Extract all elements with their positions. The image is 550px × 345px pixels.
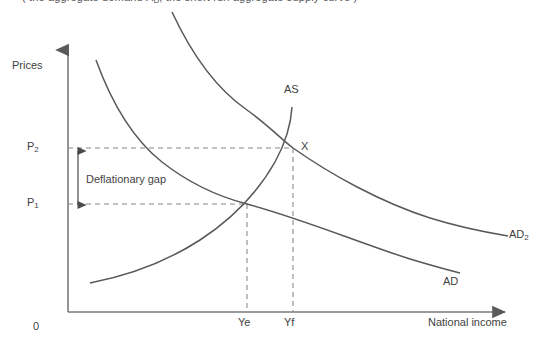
price-level-p2-label: P2 <box>27 141 39 152</box>
curve-label-ad2: AD2 <box>509 229 529 240</box>
income-level-ye-label: Ye <box>238 317 250 328</box>
curve-label-ad: AD <box>443 276 458 287</box>
price-level-p1-label: P1 <box>27 197 39 208</box>
income-level-yf-label: Yf <box>284 317 294 328</box>
curve-label-as: AS <box>284 84 299 95</box>
point-label-x: X <box>301 141 308 152</box>
origin-label: 0 <box>33 321 39 332</box>
curve-as <box>90 107 292 283</box>
diagram-canvas: ( the aggregate demand AD, the short run… <box>0 0 550 345</box>
deflationary-gap-label: Deflationary gap <box>86 174 166 185</box>
curve-ad2 <box>172 12 508 236</box>
ad-as-diagram-svg <box>0 0 550 345</box>
y-axis-label: Prices <box>12 60 43 71</box>
x-axis-label: National income <box>428 317 507 328</box>
curve-ad <box>96 60 460 273</box>
